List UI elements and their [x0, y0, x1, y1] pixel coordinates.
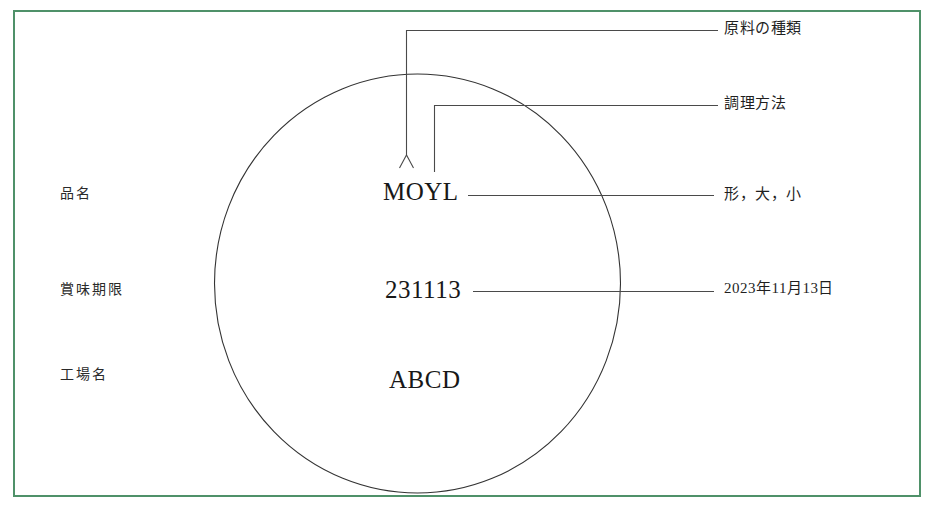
- right-label-cooking-method: 調理方法: [724, 96, 786, 111]
- stamp-code-factory: ABCD: [389, 367, 460, 392]
- right-label-ingredient-type: 原料の種類: [724, 21, 802, 36]
- stamp-code-best-before: 231113: [385, 277, 461, 302]
- right-label-shape-size: 形，大，小: [724, 187, 802, 202]
- diagram-canvas: 品名 賞味期限 工場名 MOYL 231113 ABCD 原料の種類 調理方法 …: [0, 0, 934, 511]
- green-border-frame: [13, 10, 921, 497]
- left-label-product-name: 品名: [60, 187, 92, 201]
- stamp-code-product: MOYL: [383, 179, 459, 204]
- right-label-best-before-date: 2023年11月13日: [724, 281, 834, 296]
- left-label-best-before: 賞味期限: [60, 283, 124, 297]
- left-label-factory-name: 工場名: [60, 368, 108, 382]
